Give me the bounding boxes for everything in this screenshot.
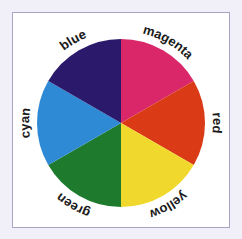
color-wheel: magentaredyellowgreencyanblue [0,0,242,239]
label-cyan: cyan [17,107,33,139]
label-red: red [209,112,225,134]
wheel-segments [37,39,205,207]
